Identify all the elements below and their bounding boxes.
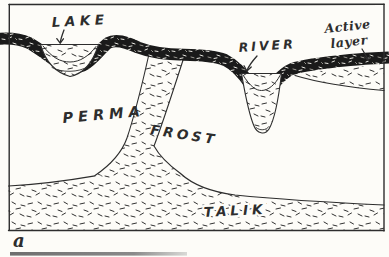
lake-label: LAKE: [51, 11, 108, 30]
scan-artifact-bar: [10, 252, 187, 256]
figure-panel: LAKE RIVER Active layer PERMA FROST TALI…: [0, 0, 389, 257]
permafrost-cross-section-diagram: LAKE RIVER Active layer PERMA FROST TALI…: [0, 0, 389, 257]
talik-label: TALIK: [203, 201, 266, 220]
panel-letter-label: a: [13, 230, 25, 251]
